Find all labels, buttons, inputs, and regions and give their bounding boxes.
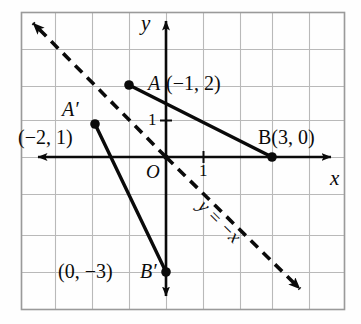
y-axis-tick-label-1: 1	[148, 111, 157, 128]
point-a-coordinates-label: (−1, 2)	[166, 73, 221, 93]
point-a-prime-label: A′	[62, 99, 79, 119]
x-axis	[38, 151, 331, 163]
point-b-prime	[161, 267, 171, 277]
point-b-prime-label: B′	[140, 261, 157, 281]
point-a-prime-coordinates-label: (−2, 1)	[18, 127, 73, 147]
origin-label: O	[146, 162, 160, 181]
point-b	[267, 152, 277, 162]
x-axis-label: x	[330, 168, 339, 189]
point-b-prime-coordinates-label: (0, −3)	[58, 261, 113, 281]
point-origin	[163, 154, 168, 159]
point-a-prime	[90, 119, 100, 129]
coordinate-plane-figure: y x O 1 1 A (−1, 2) A′ (−2, 1) B(3, 0) (…	[0, 0, 361, 324]
x-axis-tick-label-1: 1	[199, 162, 208, 179]
plot-canvas	[0, 0, 361, 324]
segment-a-prime-b-prime	[95, 124, 166, 272]
point-a-label: A	[148, 73, 160, 93]
point-b-label: B(3, 0)	[258, 127, 315, 147]
point-a	[124, 80, 134, 90]
y-axis-label: y	[141, 13, 150, 34]
